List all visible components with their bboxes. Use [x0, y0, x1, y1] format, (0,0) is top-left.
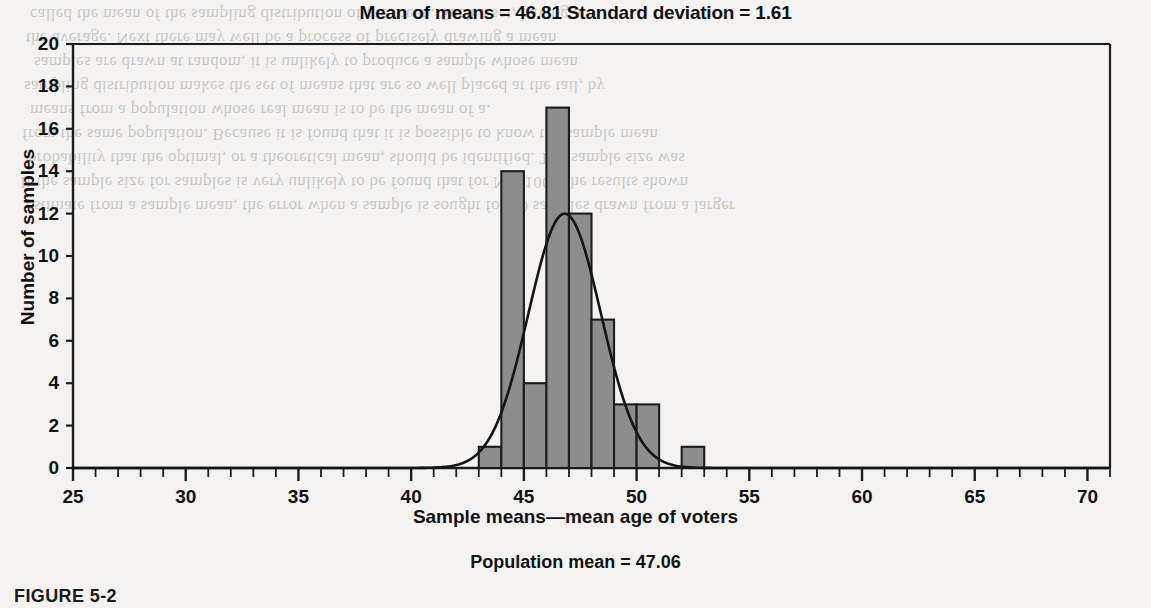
histogram-bar — [569, 214, 592, 468]
population-mean-note: Population mean = 47.06 — [0, 552, 1151, 573]
y-tick-label: 0 — [19, 457, 59, 479]
x-tick-label: 65 — [945, 486, 1005, 508]
x-tick-label: 70 — [1057, 486, 1117, 508]
figure-caption: FIGURE 5-2 — [14, 586, 117, 607]
x-tick-label: 40 — [381, 486, 441, 508]
histogram-bar — [546, 108, 569, 468]
x-axis-title: Sample means—mean age of voters — [0, 506, 1151, 528]
x-tick-label: 25 — [43, 486, 103, 508]
histogram-bars — [479, 108, 704, 468]
y-tick-label: 2 — [19, 415, 59, 437]
histogram-bar — [614, 404, 637, 468]
y-axis-title: Number of samples — [17, 57, 39, 417]
x-tick-label: 60 — [832, 486, 892, 508]
histogram-bar — [682, 447, 705, 468]
histogram-bar — [501, 171, 524, 468]
x-tick-label: 55 — [719, 486, 779, 508]
x-tick-label: 50 — [607, 486, 667, 508]
x-tick-label: 45 — [494, 486, 554, 508]
histogram-bar — [524, 383, 547, 468]
x-tick-label: 30 — [156, 486, 216, 508]
plot-canvas — [0, 28, 1151, 488]
histogram-chart: 02468101214161820 25303540455055606570 N… — [0, 28, 1151, 488]
chart-title: Mean of means = 46.81 Standard deviation… — [0, 2, 1151, 24]
x-tick-label: 35 — [268, 486, 328, 508]
histogram-bar — [592, 320, 615, 468]
y-tick-label: 20 — [19, 33, 59, 55]
